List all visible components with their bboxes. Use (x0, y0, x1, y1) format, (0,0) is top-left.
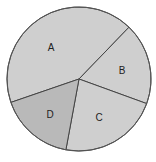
label-b: B (119, 65, 126, 76)
label-d: D (46, 109, 53, 120)
label-c: C (95, 112, 102, 123)
pie-chart: A B C D (0, 0, 156, 162)
label-a: A (48, 42, 55, 53)
